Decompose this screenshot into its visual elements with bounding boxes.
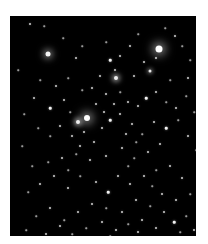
star: [127, 165, 129, 167]
star: [179, 231, 181, 233]
star: [83, 131, 85, 133]
star: [161, 193, 163, 195]
star: [165, 127, 168, 130]
star: [75, 57, 77, 59]
star: [193, 111, 195, 113]
star: [141, 219, 143, 221]
star: [141, 133, 143, 135]
star: [133, 75, 135, 77]
star: [187, 135, 189, 137]
star: [95, 103, 97, 105]
star: [105, 155, 107, 157]
star: [114, 69, 116, 71]
star: [77, 211, 79, 213]
star: [137, 231, 139, 233]
star: [67, 77, 69, 79]
star: [193, 229, 195, 231]
star: [67, 169, 69, 171]
star: [131, 123, 133, 125]
figure-caption: [0, 0, 208, 8]
star: [119, 55, 121, 57]
star: [155, 169, 157, 171]
star: [67, 187, 69, 189]
star: [45, 233, 47, 235]
star: [135, 141, 137, 143]
star: [115, 229, 117, 231]
star: [129, 183, 131, 185]
star: [39, 183, 41, 185]
star: [169, 79, 171, 81]
star: [55, 85, 57, 87]
star: [153, 121, 155, 123]
star: [147, 151, 149, 153]
star: [23, 113, 25, 115]
star: [105, 41, 107, 43]
bright-star: [114, 76, 118, 80]
star: [71, 233, 73, 235]
star: [105, 207, 107, 209]
star: [101, 221, 103, 223]
star: [31, 165, 33, 167]
star: [75, 153, 77, 155]
star: [49, 135, 51, 137]
star: [59, 225, 61, 227]
star: [113, 103, 115, 105]
star: [189, 59, 191, 61]
star: [163, 211, 165, 213]
star: [79, 145, 81, 147]
star: [177, 119, 179, 121]
star: [79, 175, 81, 177]
star: [149, 205, 151, 207]
star: [127, 223, 129, 225]
star: [49, 207, 51, 209]
star: [71, 135, 73, 137]
star: [99, 75, 101, 77]
star: [109, 119, 112, 122]
star: [175, 199, 177, 201]
star: [81, 45, 83, 47]
star: [63, 219, 65, 221]
star: [155, 91, 157, 93]
star: [53, 175, 55, 177]
star-cluster-image: [10, 16, 196, 236]
star: [119, 113, 121, 115]
star: [61, 157, 63, 159]
star: [185, 215, 187, 217]
star: [59, 125, 61, 127]
star: [107, 191, 110, 194]
star: [33, 97, 35, 99]
star: [187, 77, 189, 79]
star: [109, 235, 111, 236]
star: [175, 107, 177, 109]
star: [121, 147, 123, 149]
star: [155, 57, 157, 59]
star: [39, 79, 41, 81]
star: [17, 69, 19, 71]
star: [63, 99, 65, 101]
star: [85, 227, 87, 229]
star: [169, 165, 171, 167]
star: [173, 221, 176, 224]
star: [125, 133, 127, 135]
star: [21, 145, 23, 147]
star: [95, 181, 97, 183]
star: [105, 93, 107, 95]
star: [91, 203, 93, 205]
star: [101, 127, 103, 129]
star: [129, 45, 131, 47]
bright-star: [149, 70, 152, 73]
star: [159, 143, 161, 145]
bright-star: [46, 52, 51, 57]
star: [127, 101, 129, 103]
star: [89, 159, 91, 161]
star: [37, 127, 39, 129]
star: [109, 59, 112, 62]
star: [145, 97, 148, 100]
star: [62, 37, 64, 39]
star: [47, 161, 49, 163]
star: [143, 61, 145, 63]
star: [43, 25, 45, 27]
star: [121, 211, 123, 213]
star: [119, 91, 121, 93]
star: [137, 105, 139, 107]
